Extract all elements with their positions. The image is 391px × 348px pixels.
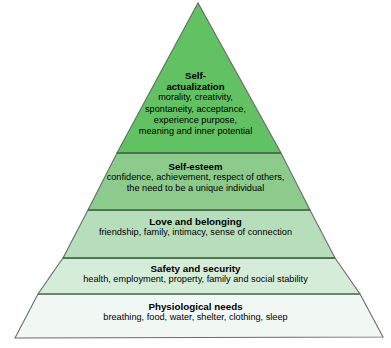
tier-1-desc-line-2: spontaneity, acceptance,: [108, 104, 283, 115]
pyramid-tier-2-label: Self-esteem confidence, achievement, res…: [76, 161, 315, 195]
tier-1-desc-line-3: experience purpose,: [108, 115, 283, 126]
tier-3-title: Love and belonging: [52, 216, 339, 227]
pyramid-tier-5-label: Physiological needs breathing, food, wat…: [10, 301, 381, 324]
tier-1-title-line-2: actualization: [108, 82, 283, 93]
tier-4-title: Safety and security: [28, 263, 363, 274]
tier-3-desc-line-1: friendship, family, intimacy, sense of c…: [52, 227, 339, 239]
pyramid-tier-3-label: Love and belonging friendship, family, i…: [52, 216, 339, 239]
tier-1-desc-line-1: morality, creativity,: [108, 92, 283, 103]
tier-1-desc-line-4: meaning and inner potential: [108, 126, 283, 137]
maslow-pyramid-figure: Self- actualization morality, creativity…: [0, 0, 391, 348]
tier-4-desc-line-1: health, employment, property, family and…: [28, 274, 363, 286]
tier-2-desc-line-2: the need to be a unique individual: [76, 183, 315, 194]
pyramid-tier-4-label: Safety and security health, employment, …: [28, 263, 363, 286]
tier-5-title: Physiological needs: [10, 301, 381, 312]
pyramid-tier-1-label: Self- actualization morality, creativity…: [108, 71, 283, 137]
tier-2-desc-line-1: confidence, achievement, respect of othe…: [76, 172, 315, 183]
tier-5-desc-line-1: breathing, food, water, shelter, clothin…: [10, 312, 381, 324]
tier-2-title: Self-esteem: [76, 161, 315, 172]
